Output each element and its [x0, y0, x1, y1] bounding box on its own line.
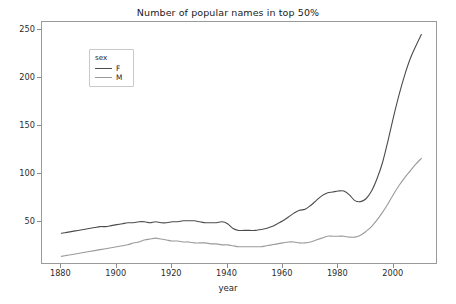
x-tick-mark [227, 264, 228, 268]
legend-label-M: M [116, 73, 122, 82]
legend-item-M[interactable]: M [95, 73, 129, 82]
x-tick-mark [282, 264, 283, 268]
y-tick-label: 250 [0, 24, 41, 34]
x-tick-label: 2000 [382, 268, 403, 278]
y-tick-mark [37, 29, 41, 30]
figure: Number of popular names in top 50% sex F… [0, 0, 456, 304]
legend[interactable]: sex F M [89, 49, 134, 87]
legend-title: sex [95, 53, 129, 62]
y-tick-mark [37, 77, 41, 78]
y-tick-mark [37, 221, 41, 222]
y-tick-label: 100 [0, 168, 41, 178]
x-tick-mark [60, 264, 61, 268]
chart-title: Number of popular names in top 50% [0, 7, 456, 18]
legend-swatch-M [95, 77, 112, 78]
x-tick-label: 1980 [327, 268, 348, 278]
y-tick-mark [37, 125, 41, 126]
x-tick-mark [393, 264, 394, 268]
y-tick-mark [37, 173, 41, 174]
x-tick-label: 1940 [216, 268, 237, 278]
legend-label-F: F [116, 64, 120, 73]
y-tick-label: 50 [0, 216, 41, 226]
legend-item-F[interactable]: F [95, 64, 129, 73]
x-tick-label: 1900 [105, 268, 126, 278]
x-axis-label: year [0, 283, 456, 293]
y-tick-label: 200 [0, 72, 41, 82]
x-tick-label: 1960 [272, 268, 293, 278]
y-tick-label: 150 [0, 120, 41, 130]
x-tick-mark [337, 264, 338, 268]
line-series-M [61, 158, 421, 256]
x-tick-label: 1920 [161, 268, 182, 278]
plot-area: sex F M [41, 21, 437, 264]
x-tick-mark [116, 264, 117, 268]
x-tick-mark [171, 264, 172, 268]
x-tick-label: 1880 [50, 268, 71, 278]
legend-swatch-F [95, 68, 112, 69]
